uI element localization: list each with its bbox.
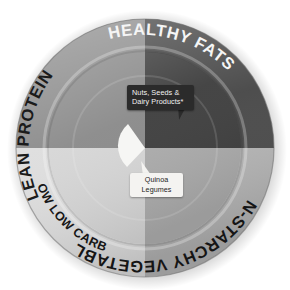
light-callout-line-2: Legumes (130, 185, 183, 195)
light-callout-box: Quinoa Legumes (130, 173, 183, 197)
plate-diagram: LEAN PROTEIN HEALTHY FATS NON-STARCHY VE… (0, 0, 290, 290)
healthy-plate-infographic: LEAN PROTEIN HEALTHY FATS NON-STARCHY VE… (0, 0, 290, 290)
light-callout-line-1: Quinoa (130, 175, 183, 185)
dark-callout-line-1: Nuts, Seeds & (132, 88, 190, 97)
dark-callout-box: Nuts, Seeds & Dairy Products* (127, 85, 194, 110)
dark-callout-line-2: Dairy Products* (132, 97, 190, 106)
